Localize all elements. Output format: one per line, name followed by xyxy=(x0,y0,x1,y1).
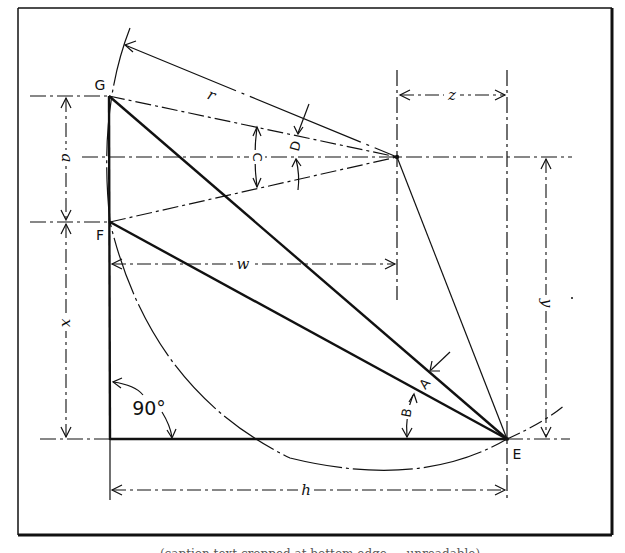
dimension-z: z xyxy=(400,86,505,104)
svg-text:h: h xyxy=(301,481,311,499)
svg-text:y: y xyxy=(538,298,556,308)
dimension-a: a xyxy=(58,98,76,220)
figure-caption-cropped: (caption text cropped at bottom edge — u… xyxy=(60,544,580,553)
line-g-f-vertical xyxy=(109,96,110,440)
dimension-h: h xyxy=(112,481,505,499)
dimension-x: x xyxy=(58,224,76,437)
geometric-diagram: z r a x w y xyxy=(0,0,625,553)
line-f-o xyxy=(110,157,397,222)
point-e xyxy=(505,437,509,441)
radius-line-r xyxy=(125,45,397,157)
point-label-f: F xyxy=(96,227,104,243)
dimension-w: w xyxy=(112,255,395,273)
svg-text:z: z xyxy=(447,86,456,104)
point-label-e: E xyxy=(513,446,522,462)
dimension-y: y xyxy=(538,159,556,437)
line-g-o xyxy=(109,96,397,157)
circular-arc-extension xyxy=(507,405,565,439)
right-angle-marker: 90° xyxy=(113,378,176,438)
point-label-g: G xyxy=(95,77,106,93)
svg-text:w: w xyxy=(237,255,250,273)
line-g-e xyxy=(109,96,507,439)
angle-c: C xyxy=(249,127,265,187)
svg-text:C: C xyxy=(250,152,265,161)
line-o-e xyxy=(397,157,507,439)
angle-b: B xyxy=(398,394,417,437)
svg-text:D: D xyxy=(287,139,304,153)
line-f-e xyxy=(110,222,507,439)
stray-dot xyxy=(571,297,573,299)
svg-text:90°: 90° xyxy=(132,397,166,419)
point-o xyxy=(395,155,399,159)
svg-text:a: a xyxy=(58,154,76,163)
frame-border xyxy=(18,8,612,535)
svg-text:x: x xyxy=(58,319,76,328)
